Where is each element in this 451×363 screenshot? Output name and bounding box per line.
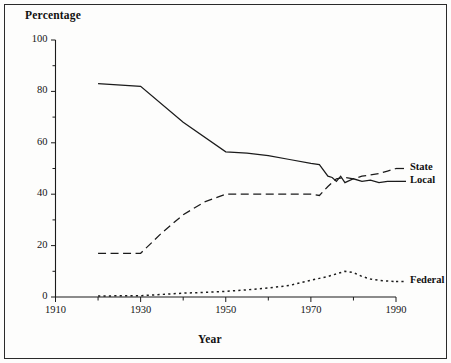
x-tick-label: 1990	[376, 304, 416, 315]
series-line-state	[98, 169, 396, 254]
x-axis-title: Year	[198, 333, 222, 345]
y-tick-label: 20	[22, 239, 48, 250]
series-label-federal: Federal	[410, 274, 444, 285]
series-line-federal	[98, 271, 396, 296]
x-tick-label: 1930	[121, 304, 161, 315]
y-tick-label: 60	[22, 136, 48, 147]
axes	[51, 40, 396, 302]
y-tick-label: 100	[22, 33, 48, 44]
y-axis-title: Percentage	[25, 9, 81, 21]
chart-figure: Percentage Year 020406080100 19101930195…	[0, 0, 451, 363]
y-tick-label: 40	[22, 187, 48, 198]
y-tick-label: 80	[22, 84, 48, 95]
x-tick-label: 1950	[206, 304, 246, 315]
x-tick-label: 1970	[291, 304, 331, 315]
series-line-local	[98, 84, 396, 183]
series-label-state: State	[410, 161, 433, 172]
y-tick-label: 0	[22, 290, 48, 301]
x-tick-label: 1910	[36, 304, 76, 315]
series-label-local: Local	[410, 174, 435, 185]
data-series	[98, 84, 406, 296]
